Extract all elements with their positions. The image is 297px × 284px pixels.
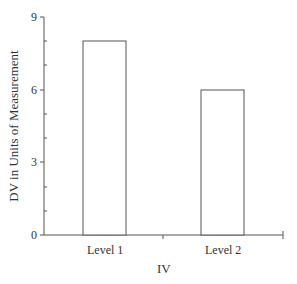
y-tick-9: 9: [25, 10, 37, 25]
x-category-level-2: Level 2: [205, 243, 241, 258]
x-axis-label: IV: [157, 261, 171, 277]
bar-level-1: [83, 41, 126, 235]
y-axis-label: DV in Units of Measurement: [6, 50, 22, 201]
bar-level-2: [201, 90, 244, 235]
x-category-level-1: Level 1: [87, 243, 123, 258]
y-tick-3: 3: [25, 155, 37, 170]
y-tick-6: 6: [25, 83, 37, 98]
y-tick-0: 0: [25, 228, 37, 243]
chart-canvas: [0, 0, 297, 284]
